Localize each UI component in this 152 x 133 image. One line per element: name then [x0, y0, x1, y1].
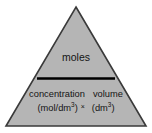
- triangle-outline: [6, 7, 146, 126]
- formula-triangle-diagram: moles concentrationvolume (mol/dm3)×(dm3…: [0, 0, 152, 133]
- triangle-shape: [0, 0, 152, 133]
